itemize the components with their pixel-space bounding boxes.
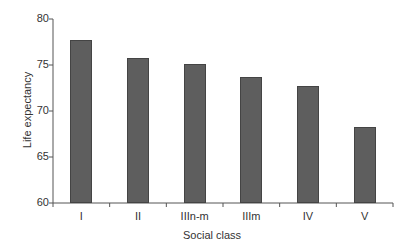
x-tick-label: I (51, 210, 111, 222)
x-tick-label: IIIn-m (165, 210, 225, 222)
y-axis-title: Life expectancy (21, 65, 33, 155)
x-tick-label: V (335, 210, 395, 222)
bar-iv (297, 86, 319, 203)
bar-v (354, 127, 376, 203)
bar-chart: 6065707580 IIIIIIn-mIIImIVV Social class… (0, 0, 406, 249)
bar-i (70, 40, 92, 203)
x-tick-label: IIIm (221, 210, 281, 222)
y-tick-label: 60 (19, 196, 49, 208)
bar-ii (127, 58, 149, 203)
x-tick-label: IV (278, 210, 338, 222)
bar-iiin-m (184, 64, 206, 203)
bar-iiim (240, 77, 262, 203)
y-tick-label: 80 (19, 12, 49, 24)
x-axis-title: Social class (183, 229, 241, 241)
x-tick-label: II (108, 210, 168, 222)
